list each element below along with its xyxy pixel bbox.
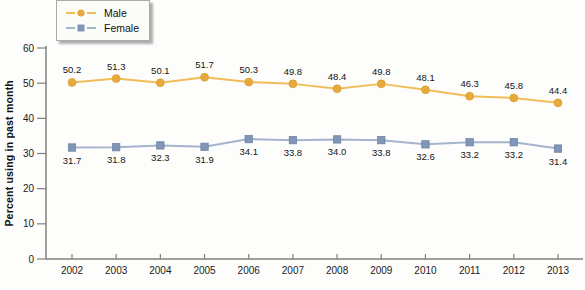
data-point (156, 79, 164, 87)
legend-label-female: Female (104, 22, 139, 34)
y-axis-title: Percent using in past month (1, 48, 17, 259)
x-tick-label: 2003 (105, 265, 128, 276)
data-point (466, 139, 473, 146)
data-point (112, 75, 120, 83)
x-tick-label: 2008 (326, 265, 349, 276)
line-chart-figure: Percent using in past month Male Female … (0, 0, 585, 290)
x-tick-label: 2011 (459, 265, 481, 276)
series-line-male (72, 77, 558, 103)
data-point (333, 136, 340, 143)
data-point (245, 78, 253, 86)
data-point (289, 80, 297, 88)
value-label: 48.4 (328, 71, 347, 82)
legend-label-male: Male (104, 7, 127, 19)
data-point (289, 136, 296, 143)
value-label: 48.1 (416, 72, 435, 83)
value-label: 46.3 (460, 78, 479, 89)
value-label: 34.0 (328, 146, 347, 157)
y-axis-title-text: Percent using in past month (3, 80, 15, 227)
value-label: 31.4 (549, 156, 568, 167)
legend-item-female: Female (65, 20, 139, 35)
data-point (510, 94, 518, 102)
y-tick-label: 10 (23, 218, 35, 229)
value-label: 31.9 (195, 154, 214, 165)
y-tick-label: 0 (28, 254, 34, 265)
data-point (201, 143, 208, 150)
value-label: 33.8 (372, 147, 391, 158)
series-line-female (72, 139, 558, 148)
x-tick-label: 2005 (193, 265, 216, 276)
value-label: 32.3 (151, 152, 170, 163)
value-label: 34.1 (239, 146, 258, 157)
data-point (201, 73, 209, 81)
value-label: 45.8 (505, 80, 524, 91)
value-label: 50.2 (63, 64, 82, 75)
data-point (510, 139, 517, 146)
x-tick-label: 2012 (503, 265, 526, 276)
y-tick-label: 30 (23, 148, 35, 159)
data-point (378, 136, 385, 143)
data-point (421, 86, 429, 94)
y-tick-label: 60 (23, 43, 35, 54)
data-point (68, 144, 75, 151)
data-point (554, 99, 562, 107)
x-tick-label: 2007 (282, 265, 305, 276)
x-tick-label: 2013 (547, 265, 570, 276)
y-tick-label: 40 (23, 113, 35, 124)
y-tick-label: 20 (23, 183, 35, 194)
value-label: 49.8 (372, 66, 391, 77)
value-label: 51.3 (107, 61, 126, 72)
data-point (68, 78, 76, 86)
value-label: 31.7 (63, 155, 82, 166)
legend-item-male: Male (65, 5, 139, 20)
value-label: 49.8 (284, 66, 303, 77)
data-point (554, 145, 561, 152)
value-label: 31.8 (107, 154, 126, 165)
y-tick-label: 50 (23, 78, 35, 89)
data-point (422, 141, 429, 148)
value-label: 33.8 (284, 147, 303, 158)
chart-plot-area: 0102030405060200220032004200520062007200… (0, 0, 585, 290)
data-point (466, 92, 474, 100)
value-label: 33.2 (505, 149, 524, 160)
data-point (112, 143, 119, 150)
data-point (245, 135, 252, 142)
chart-legend: Male Female (56, 0, 150, 41)
x-tick-label: 2009 (370, 265, 393, 276)
data-point (157, 142, 164, 149)
value-label: 50.3 (239, 64, 258, 75)
male-line-swatch-icon (65, 8, 97, 18)
data-point (377, 80, 385, 88)
x-tick-label: 2010 (414, 265, 437, 276)
data-point (333, 85, 341, 93)
value-label: 44.4 (549, 85, 568, 96)
value-label: 51.7 (195, 59, 214, 70)
female-line-swatch-icon (65, 23, 97, 33)
value-label: 32.6 (416, 151, 435, 162)
value-label: 33.2 (460, 149, 479, 160)
x-tick-label: 2004 (149, 265, 172, 276)
x-tick-label: 2006 (238, 265, 261, 276)
x-tick-label: 2002 (61, 265, 84, 276)
value-label: 50.1 (151, 65, 170, 76)
